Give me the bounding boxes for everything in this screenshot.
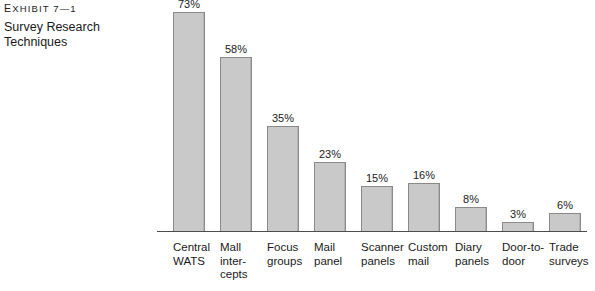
bar[interactable] — [408, 183, 440, 231]
bar-category-label: Mail panel — [314, 241, 361, 268]
bar-category-label: Focus groups — [267, 241, 314, 268]
bar-value-label: 8% — [451, 193, 491, 205]
bar-value-label: 15% — [357, 172, 397, 184]
bar-value-label: 16% — [404, 169, 444, 181]
bar-value-label: 23% — [310, 148, 350, 160]
bar-category-label: Scanner panels — [361, 241, 408, 268]
bar[interactable] — [361, 186, 393, 231]
bar-category-label: Diary panels — [455, 241, 502, 268]
bar-group: 3%Door-to- door — [502, 0, 549, 291]
bar-value-label: 35% — [263, 112, 303, 124]
bar-category-label: Custom mail — [408, 241, 455, 268]
bar-category-label: Door-to- door — [502, 241, 549, 268]
bar-group: 58%Mall inter- cepts — [220, 0, 267, 291]
bar-group: 8%Diary panels — [455, 0, 502, 291]
bar-category-label: Mall inter- cepts — [220, 241, 267, 282]
bar[interactable] — [502, 222, 534, 231]
bar[interactable] — [173, 12, 205, 231]
bar-group: 15%Scanner panels — [361, 0, 408, 291]
bar[interactable] — [549, 213, 581, 231]
bar-group: 16%Custom mail — [408, 0, 455, 291]
bar-value-label: 58% — [216, 43, 256, 55]
bar-group: 35%Focus groups — [267, 0, 314, 291]
bar-value-label: 3% — [498, 208, 538, 220]
bar[interactable] — [267, 126, 299, 231]
bar[interactable] — [220, 57, 252, 231]
bar[interactable] — [455, 207, 487, 231]
bar-category-label: Trade surveys — [549, 241, 595, 268]
bar[interactable] — [314, 162, 346, 231]
bar-group: 73%Central WATS — [173, 0, 220, 291]
bar-chart: 73%Central WATS58%Mall inter- cepts35%Fo… — [0, 0, 595, 291]
bar-group: 23%Mail panel — [314, 0, 361, 291]
bar-value-label: 6% — [545, 199, 585, 211]
bar-category-label: Central WATS — [173, 241, 220, 268]
bar-value-label: 73% — [169, 0, 209, 10]
bar-group: 6%Trade surveys — [549, 0, 595, 291]
